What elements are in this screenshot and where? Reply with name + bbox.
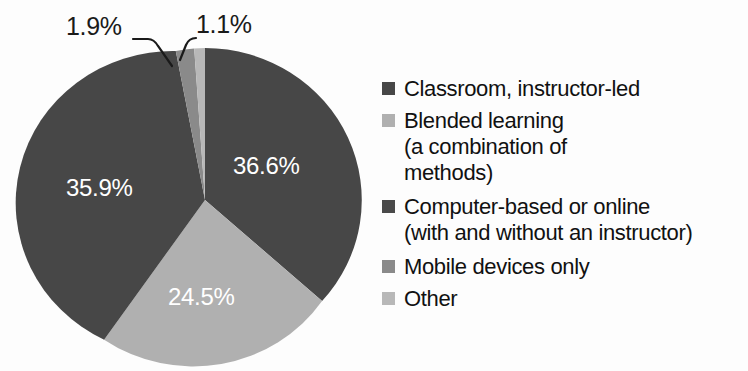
slice-value-blended: 24.5%	[168, 283, 235, 311]
chart-legend: Classroom, instructor-led Blended learni…	[382, 76, 742, 318]
legend-label-mobile: Mobile devices only	[404, 254, 589, 280]
legend-swatch-icon-classroom	[382, 82, 395, 95]
legend-item-classroom[interactable]: Classroom, instructor-led	[382, 76, 742, 102]
callout-label-mobile: 1.9%	[66, 12, 122, 41]
legend-item-blended[interactable]: Blended learning (a combination of metho…	[382, 108, 742, 186]
legend-swatch-icon-computer	[382, 200, 395, 213]
callout-label-other: 1.1%	[196, 10, 252, 39]
slice-value-computer: 35.9%	[66, 174, 133, 202]
legend-item-computer[interactable]: Computer-based or online (with and witho…	[382, 194, 742, 246]
legend-swatch-icon-blended	[382, 114, 395, 127]
slice-value-classroom: 36.6%	[233, 152, 300, 180]
legend-label-computer: Computer-based or online (with and witho…	[404, 194, 692, 246]
legend-swatch-icon-other	[382, 292, 395, 305]
pie-graphic	[0, 0, 420, 371]
legend-item-mobile[interactable]: Mobile devices only	[382, 254, 742, 280]
pie-chart: 1.9% 1.1% 36.6% 35.9% 24.5% Classroom, i…	[0, 0, 748, 371]
legend-label-other: Other	[404, 286, 457, 312]
legend-swatch-icon-mobile	[382, 260, 395, 273]
legend-label-classroom: Classroom, instructor-led	[404, 76, 640, 102]
legend-item-other[interactable]: Other	[382, 286, 742, 312]
legend-label-blended: Blended learning (a combination of metho…	[404, 108, 567, 186]
